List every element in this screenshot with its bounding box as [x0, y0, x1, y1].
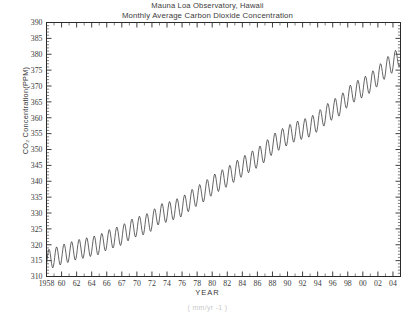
x-axis-label: YEAR [0, 288, 415, 297]
svg-text:04: 04 [389, 279, 397, 288]
svg-text:355: 355 [31, 129, 43, 138]
figure-footnote: ( mm/yr -1 ) [0, 304, 415, 314]
chart-title: Mauna Loa Observatory, Hawaii Monthly Av… [0, 1, 415, 20]
x-axis-ticks [47, 23, 401, 277]
svg-text:78: 78 [193, 279, 201, 288]
svg-text:385: 385 [31, 34, 43, 43]
svg-text:96: 96 [329, 279, 337, 288]
svg-text:335: 335 [31, 193, 43, 202]
svg-text:70: 70 [133, 279, 141, 288]
svg-text:98: 98 [344, 279, 352, 288]
svg-text:66: 66 [103, 279, 111, 288]
svg-text:375: 375 [31, 66, 43, 75]
svg-text:60: 60 [58, 279, 66, 288]
y-axis-tick-labels: 3103153203253303353403453503553603653703… [31, 18, 43, 281]
svg-text:330: 330 [31, 209, 43, 218]
svg-text:365: 365 [31, 98, 43, 107]
svg-text:94: 94 [314, 279, 322, 288]
co2-data-line [47, 50, 400, 268]
plot-frame [47, 23, 401, 277]
svg-text:72: 72 [148, 279, 156, 288]
svg-text:345: 345 [31, 161, 43, 170]
svg-text:370: 370 [31, 82, 43, 91]
svg-text:74: 74 [163, 279, 171, 288]
x-axis-tick-labels: 1958606264666770727476788082848688909294… [39, 279, 397, 288]
y-axis-ticks [47, 23, 401, 277]
chart-title-line-2: Monthly Average Carbon Dioxide Concentra… [0, 11, 415, 21]
y-axis-label: CO₂ Concentration(PPM) [21, 41, 30, 181]
svg-text:76: 76 [178, 279, 186, 288]
svg-text:67: 67 [118, 279, 126, 288]
svg-text:88: 88 [269, 279, 277, 288]
svg-text:92: 92 [299, 279, 307, 288]
svg-text:360: 360 [31, 114, 43, 123]
chart-title-line-1: Mauna Loa Observatory, Hawaii [0, 1, 415, 11]
svg-text:86: 86 [253, 279, 261, 288]
svg-text:325: 325 [31, 225, 43, 234]
svg-text:82: 82 [223, 279, 231, 288]
svg-text:315: 315 [31, 256, 43, 265]
svg-text:1958: 1958 [39, 279, 55, 288]
svg-text:84: 84 [238, 279, 246, 288]
svg-text:00: 00 [359, 279, 367, 288]
svg-text:340: 340 [31, 177, 43, 186]
svg-text:80: 80 [208, 279, 216, 288]
plot-area: 3103153203253303353403453503553603653703… [0, 0, 415, 314]
svg-text:350: 350 [31, 145, 43, 154]
svg-text:62: 62 [73, 279, 81, 288]
svg-text:02: 02 [374, 279, 382, 288]
svg-text:90: 90 [284, 279, 292, 288]
svg-text:64: 64 [88, 279, 96, 288]
svg-text:380: 380 [31, 50, 43, 59]
chart-figure: Mauna Loa Observatory, Hawaii Monthly Av… [0, 0, 415, 314]
svg-text:320: 320 [31, 241, 43, 250]
